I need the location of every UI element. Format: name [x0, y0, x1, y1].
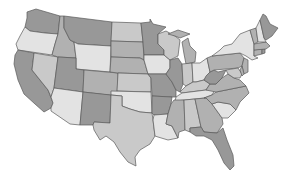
- state-AZ[interactable]: [51, 88, 83, 125]
- state-NE[interactable]: [110, 57, 148, 74]
- us-map: [0, 0, 290, 182]
- state-ND[interactable]: [111, 22, 143, 42]
- state-RI[interactable]: [262, 49, 265, 54]
- state-FL[interactable]: [190, 127, 234, 170]
- state-KS[interactable]: [117, 73, 151, 92]
- state-NM[interactable]: [80, 92, 111, 125]
- state-IA[interactable]: [144, 55, 170, 74]
- state-WY[interactable]: [74, 42, 111, 72]
- state-MA[interactable]: [254, 42, 270, 50]
- state-WA[interactable]: [25, 9, 60, 34]
